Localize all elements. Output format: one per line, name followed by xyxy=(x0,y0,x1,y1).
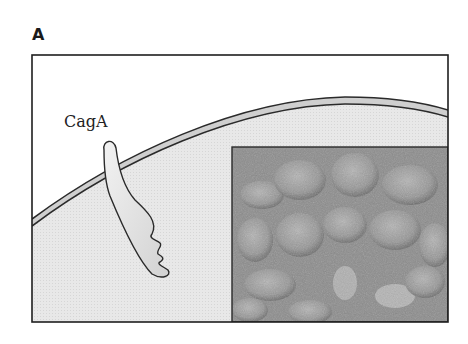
micrograph-inset xyxy=(232,147,451,324)
figure-diagram xyxy=(0,0,468,344)
caga-label: CagA xyxy=(64,112,108,131)
